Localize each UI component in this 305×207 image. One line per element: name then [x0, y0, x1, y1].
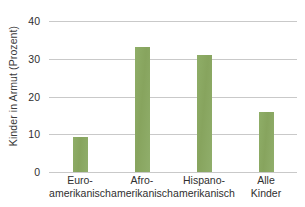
y-axis-tick-label: 30: [28, 53, 40, 65]
gridline: [49, 172, 297, 173]
x-axis-tick-label-line: amerikanisch: [173, 187, 235, 200]
x-axis-tick-label-line: Kinder: [251, 187, 281, 200]
bar: [73, 137, 88, 172]
x-axis-tick-label-line: Euro-: [49, 174, 111, 187]
x-axis-tick-label: Hispano-amerikanisch: [173, 174, 235, 200]
x-axis-tick-labels: Euro-amerikanischAfro-amerikanischHispan…: [49, 174, 297, 207]
x-axis-tick-label-line: Hispano-: [173, 174, 235, 187]
x-axis-tick-label-line: Alle: [251, 174, 281, 187]
x-axis-tick-label: Euro-amerikanisch: [49, 174, 111, 200]
y-axis-tick-labels: 010203040: [0, 21, 44, 172]
y-axis-tick-label: 20: [28, 91, 40, 103]
y-axis-tick-label: 10: [28, 128, 40, 140]
gridline: [49, 21, 297, 22]
y-axis-tick-label: 40: [28, 15, 40, 27]
x-axis-tick-label: Afro-amerikanisch: [111, 174, 173, 200]
bar: [135, 47, 150, 172]
bar: [197, 55, 212, 172]
bar-chart: Kinder in Armut (Prozent) 010203040 Euro…: [0, 0, 305, 207]
x-axis-tick-label: AlleKinder: [251, 174, 281, 200]
y-axis-tick-label: 0: [34, 166, 40, 178]
bar: [259, 112, 274, 172]
gridline: [49, 59, 297, 60]
x-axis-tick-label-line: Afro-: [111, 174, 173, 187]
gridline: [49, 97, 297, 98]
plot-area: [49, 21, 297, 172]
x-axis-tick-label-line: amerikanisch: [111, 187, 173, 200]
x-axis-tick-label-line: amerikanisch: [49, 187, 111, 200]
